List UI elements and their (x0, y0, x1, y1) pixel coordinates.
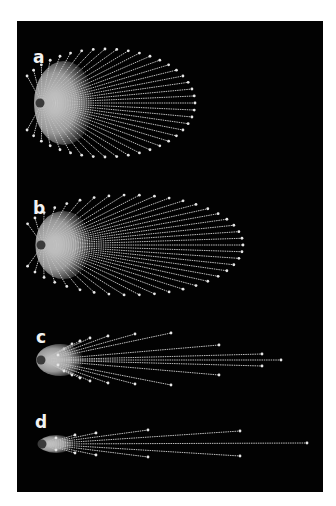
ray-tip-dot (49, 59, 52, 62)
ray-tip-dot (237, 230, 240, 233)
ray-tip-dot (93, 196, 96, 199)
ray-tip-dot (195, 203, 198, 206)
ray-tip-dot (123, 194, 126, 197)
ray-tip-dot (115, 48, 118, 51)
ray-tip-dot (26, 129, 29, 132)
ray-tip-dot (191, 116, 194, 119)
ray-tip-dot (49, 144, 52, 147)
ray-tip-dot (107, 382, 110, 385)
ray-tip-dot (108, 293, 111, 296)
ray-tip-dot (225, 218, 228, 221)
panel-b-source-dot (37, 241, 46, 250)
ray-tip-dot (80, 49, 83, 52)
ray-tip-dot (242, 244, 245, 247)
ray-tip-dot (182, 129, 185, 132)
panel-b-rays (26, 194, 244, 297)
ray-tip-dot (175, 134, 178, 137)
ray-tip-dot (32, 69, 35, 72)
panel-c-rays (36, 332, 282, 387)
ray-tip-dot (232, 263, 235, 266)
ray-tip-dot (261, 353, 264, 356)
ray-tip-dot (225, 269, 228, 272)
ray-tip-dot (193, 95, 196, 98)
panel-a-source-dot (36, 99, 45, 108)
ray-tip-dot (239, 430, 242, 433)
ray-tip-dot (218, 374, 221, 377)
ray-tip-dot (158, 144, 161, 147)
ray-tip-dot (138, 293, 141, 296)
ray-tip-dot (55, 449, 58, 452)
ray-tip-dot (53, 206, 56, 209)
ray-tip-dot (104, 156, 107, 159)
ray-tip-dot (237, 257, 240, 260)
ray-tip-dot (134, 383, 137, 386)
ray-tip-dot (167, 63, 170, 66)
ray-tip-dot (138, 194, 141, 197)
ray-tip-dot (115, 155, 118, 158)
ray-tip-dot (57, 364, 60, 367)
ray-tip-dot (107, 335, 110, 338)
ray-tip-dot (193, 109, 196, 112)
ray-tip-dot (80, 154, 83, 157)
ray-tip-dot (32, 134, 35, 137)
ray-tip-dot (167, 140, 170, 143)
ray-tip-dot (92, 48, 95, 51)
panel-label-a: a (33, 49, 44, 66)
panel-a-rays (26, 48, 197, 159)
panel-d-rays (38, 429, 309, 459)
ray-tip-dot (149, 148, 152, 151)
ray-tip-dot (89, 337, 92, 340)
ray-tip-dot (63, 370, 66, 373)
ray-tip-dot (241, 237, 244, 240)
ray-tip-dot (127, 49, 130, 52)
figure-panel: a b c d (17, 21, 323, 492)
ray-tip-dot (59, 55, 62, 58)
ray-tip-dot (104, 48, 107, 51)
ray-tip-dot (43, 276, 46, 279)
ray-tip-dot (217, 275, 220, 278)
ray-tip-dot (26, 265, 29, 268)
ray-tip-dot (134, 333, 137, 336)
panel-c-source-dot (37, 356, 46, 365)
ray-tip-dot (194, 102, 197, 105)
ray-tip-dot (153, 292, 156, 295)
ray-tip-dot (261, 365, 264, 368)
ray-tip-dot (123, 294, 126, 297)
ray-tip-dot (34, 271, 37, 274)
ray-tip-dot (147, 456, 150, 459)
ray-tip-dot (55, 437, 58, 440)
ray-tip-dot (187, 81, 190, 84)
panel-label-d: d (35, 414, 47, 431)
ray-tip-dot (71, 374, 74, 377)
panel-label-b: b (33, 200, 45, 217)
ray-tip-dot (182, 288, 185, 291)
ray-tip-dot (280, 359, 283, 362)
ray-tip-dot (69, 52, 72, 55)
ray-tip-dot (306, 442, 309, 445)
ray-diagram (17, 21, 323, 492)
ray-tip-dot (26, 75, 29, 78)
panel-label-c: c (36, 329, 46, 346)
ray-tip-dot (170, 384, 173, 387)
ray-tip-dot (182, 75, 185, 78)
ray-tip-dot (65, 285, 68, 288)
ray-tip-dot (149, 55, 152, 58)
ray-tip-dot (26, 222, 29, 225)
ray-tip-dot (182, 199, 185, 202)
ray-tip-dot (217, 212, 220, 215)
ray-tip-dot (74, 434, 77, 437)
ray-tip-dot (168, 291, 171, 294)
ray-tip-dot (187, 122, 190, 125)
ray-tip-dot (147, 429, 150, 432)
ray-tip-dot (65, 202, 68, 205)
ray-tip-dot (74, 452, 77, 455)
ray-tip-dot (59, 148, 62, 151)
ray-tip-dot (191, 88, 194, 91)
ray-tip-dot (241, 250, 244, 253)
ray-tip-dot (89, 380, 92, 383)
ray-tip-dot (79, 199, 82, 202)
ray-tip-dot (79, 288, 82, 291)
panel-d-source-dot (38, 440, 47, 449)
ray-tip-dot (93, 291, 96, 294)
ray-tip-dot (175, 69, 178, 72)
